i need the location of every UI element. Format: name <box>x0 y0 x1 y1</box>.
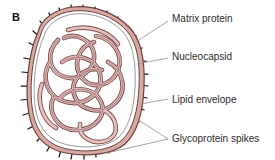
virus-structure-figure: B Matrix protein Nucleocapsid Lipid enve… <box>0 0 275 160</box>
label-lipid-envelope: Lipid envelope <box>172 94 237 105</box>
label-nucleocapsid: Nucleocapsid <box>172 51 232 62</box>
leader-line-lipid-envelope <box>141 99 168 104</box>
label-matrix-protein: Matrix protein <box>172 13 233 24</box>
leader-line-glycoprotein-upper <box>137 119 168 139</box>
panel-label-b: B <box>12 11 20 23</box>
leader-line-matrix-protein <box>139 21 168 40</box>
label-glycoprotein-spikes: Glycoprotein spikes <box>172 133 259 144</box>
